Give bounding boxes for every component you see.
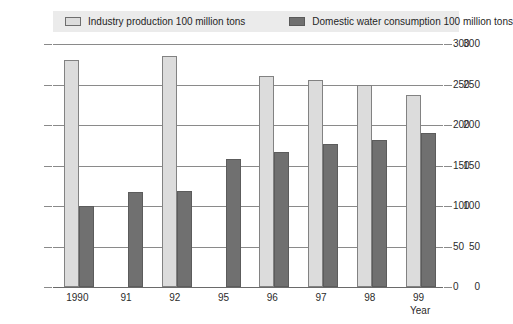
tick-left-250	[44, 85, 52, 86]
bar	[259, 76, 274, 287]
bar-group	[259, 44, 289, 287]
bar	[128, 192, 143, 287]
y-axis-right-label-50: 50	[453, 242, 464, 252]
bar	[421, 133, 436, 287]
bar-group	[357, 44, 387, 287]
chart-legend: Industry production 100 million tons Dom…	[53, 11, 459, 32]
y-axis-right-label-250: 250	[453, 80, 470, 90]
legend-label-domestic-water-consumption: Domestic water consumption 100 million t…	[312, 17, 513, 27]
x-axis-category-label: 99	[394, 293, 443, 303]
bar	[372, 140, 387, 287]
y-axis-right-label-0: 0	[453, 282, 459, 292]
bar	[79, 206, 94, 287]
x-axis-category-label: 1990	[53, 293, 102, 303]
tick-right-200	[444, 125, 452, 126]
gridline-0	[53, 287, 443, 288]
tick-left-200	[44, 125, 52, 126]
y-axis-right-label-150: 150	[453, 161, 470, 171]
bar	[226, 159, 241, 287]
x-axis-title: Year	[410, 306, 430, 316]
y-axis-right-label-100: 100	[453, 201, 470, 211]
tick-right-0	[444, 287, 452, 288]
bar-group	[406, 44, 436, 287]
tick-left-50	[44, 247, 52, 248]
tick-left-150	[44, 166, 52, 167]
x-axis-category-label: 97	[297, 293, 346, 303]
x-axis-category-label: 92	[151, 293, 200, 303]
tick-left-0	[44, 287, 52, 288]
bar-group	[162, 44, 192, 287]
x-axis-category-label: 91	[102, 293, 151, 303]
tick-left-100	[44, 206, 52, 207]
legend-item-industry-production: Industry production 100 million tons	[65, 11, 245, 32]
bar	[274, 152, 289, 287]
tick-right-300	[444, 44, 452, 45]
bar	[323, 144, 338, 287]
bar-series-container	[53, 44, 443, 287]
bar-group	[308, 44, 338, 287]
bar-group	[64, 44, 94, 287]
y-axis-right-label-200: 200	[453, 120, 470, 130]
tick-left-300	[44, 44, 52, 45]
legend-swatch-icon-light	[65, 17, 81, 26]
bar	[406, 95, 421, 287]
plot-area	[53, 44, 443, 287]
x-axis-category-label: 96	[248, 293, 297, 303]
x-axis-category-label: 95	[199, 293, 248, 303]
tick-right-150	[444, 166, 452, 167]
legend-label-industry-production: Industry production 100 million tons	[88, 17, 245, 27]
bar-group	[211, 44, 241, 287]
x-axis-category-label: 98	[346, 293, 395, 303]
y-axis-right-label-300: 300	[453, 39, 470, 49]
bar	[64, 60, 79, 287]
bar	[177, 191, 192, 287]
bar	[308, 80, 323, 287]
legend-item-domestic-water-consumption: Domestic water consumption 100 million t…	[289, 11, 513, 32]
tick-right-100	[444, 206, 452, 207]
bar	[357, 85, 372, 287]
bar	[162, 56, 177, 287]
tick-right-250	[444, 85, 452, 86]
tick-right-50	[444, 247, 452, 248]
bar-group	[113, 44, 143, 287]
legend-swatch-icon-dark	[289, 17, 305, 26]
y-axis-left-label-0: 0	[474, 282, 480, 292]
y-axis-left-label-50: 50	[469, 242, 480, 252]
